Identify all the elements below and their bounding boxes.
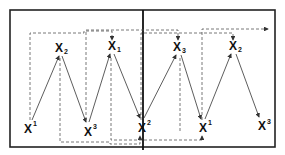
- svg-text:X: X: [108, 39, 116, 53]
- solid-arrows: [32, 54, 259, 122]
- dash-n3-n6: [86, 30, 178, 120]
- node-x3-b: X 3: [173, 40, 186, 54]
- edge-n8-n9: [236, 54, 259, 117]
- svg-text:X: X: [173, 40, 181, 54]
- edge-n3-n4: [89, 54, 110, 122]
- svg-text:3: 3: [182, 47, 186, 54]
- node-x2-b: X 2: [138, 119, 151, 135]
- dash-n1-n4: [30, 31, 112, 120]
- node-x1-a: X 1: [24, 120, 37, 136]
- svg-text:2: 2: [238, 46, 242, 53]
- svg-text:2: 2: [147, 119, 151, 126]
- svg-text:X: X: [55, 41, 63, 55]
- svg-text:X: X: [138, 121, 146, 135]
- edge-n7-n8: [205, 54, 231, 119]
- svg-text:X: X: [229, 39, 237, 53]
- edge-n2-n3: [62, 56, 86, 122]
- edge-n1-n2: [32, 56, 59, 120]
- dash-n5-n8: [141, 33, 233, 120]
- svg-text:X: X: [199, 121, 207, 135]
- node-x2-a: X 2: [55, 41, 68, 55]
- svg-text:X: X: [24, 122, 32, 136]
- svg-text:2: 2: [64, 48, 68, 55]
- node-x2-c: X 2: [229, 39, 242, 53]
- diagram-canvas: X 1 X 2 X 3 X 1 X 2 X 3 X 1 X 2 X 3: [0, 0, 285, 155]
- svg-text:1: 1: [208, 119, 212, 126]
- node-x3-c: X 3: [258, 118, 271, 133]
- svg-text:1: 1: [117, 46, 121, 53]
- node-x1-b: X 1: [108, 39, 121, 53]
- node-x3-a: X 3: [84, 123, 97, 139]
- dash-n2-n5: [60, 58, 140, 144]
- dash-n4-n7: [111, 58, 202, 140]
- dash-n6-down: [180, 58, 181, 131]
- svg-text:3: 3: [267, 118, 271, 125]
- svg-text:X: X: [84, 125, 92, 139]
- svg-text:X: X: [258, 119, 266, 133]
- edge-n4-n5: [114, 54, 140, 118]
- svg-text:3: 3: [93, 123, 97, 130]
- svg-text:1: 1: [33, 120, 37, 127]
- node-x1-c: X 1: [199, 119, 212, 135]
- edge-n6-n7: [181, 55, 201, 119]
- edge-n5-n6: [144, 55, 176, 118]
